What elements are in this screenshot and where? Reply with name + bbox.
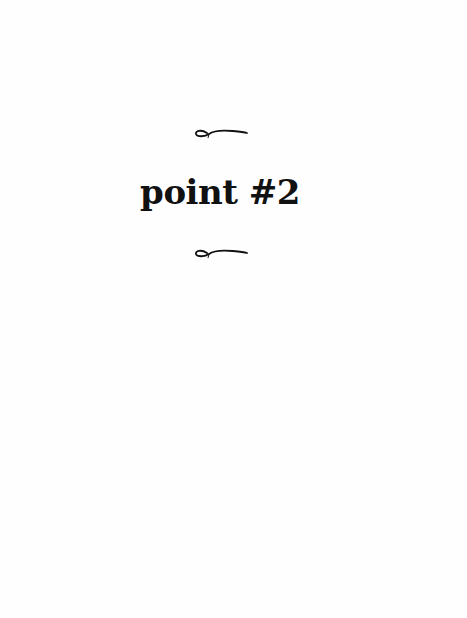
page-title: point #2	[0, 172, 440, 212]
flourish-ornament-icon	[193, 127, 249, 141]
flourish-ornament-icon	[193, 247, 249, 261]
document-page: point #2	[0, 0, 467, 618]
